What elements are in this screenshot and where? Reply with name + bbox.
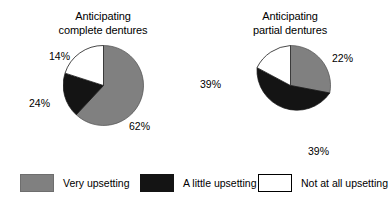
- legend-swatch-not-at-all-upsetting: [258, 174, 292, 192]
- chart-title-line-1: Anticipating: [196, 10, 384, 24]
- chart-complete-dentures: Anticipating complete dentures 14% 24% 6…: [9, 10, 197, 160]
- pie-label-a-little-upsetting: 24%: [29, 97, 50, 109]
- pie-svg-complete-dentures: [63, 45, 144, 126]
- legend-swatch-very-upsetting: [20, 174, 54, 192]
- pie-label-not-at-all-upsetting: 39%: [200, 78, 221, 90]
- chart-title-line-2: partial dentures: [196, 24, 384, 38]
- chart-partial-dentures: Anticipating partial dentures 22% 39% 39…: [196, 10, 384, 160]
- legend-label-very-upsetting: Very upsetting: [63, 177, 130, 189]
- chart-title-partial-dentures: Anticipating partial dentures: [196, 10, 384, 37]
- chart-legend: Very upsetting A little upsetting Not at…: [0, 172, 376, 196]
- pie-label-not-at-all-upsetting: 14%: [49, 50, 70, 62]
- pie-label-very-upsetting: 62%: [129, 120, 150, 132]
- chart-title-complete-dentures: Anticipating complete dentures: [9, 10, 197, 37]
- legend-item-not-at-all-upsetting: Not at all upsetting: [258, 172, 388, 194]
- chart-title-line-2: complete dentures: [9, 24, 197, 38]
- chart-title-line-1: Anticipating: [9, 10, 197, 24]
- pie-complete-dentures: [63, 45, 144, 126]
- pie-label-a-little-upsetting: 39%: [308, 145, 329, 157]
- legend-item-a-little-upsetting: A little upsetting: [140, 172, 257, 194]
- pie-partial-dentures: [250, 45, 331, 126]
- pie-svg-partial-dentures: [250, 45, 331, 126]
- pie-label-very-upsetting: 22%: [332, 52, 353, 64]
- legend-label-not-at-all-upsetting: Not at all upsetting: [301, 177, 388, 189]
- legend-swatch-a-little-upsetting: [140, 174, 174, 192]
- pie-slice-very-upsetting: [291, 45, 331, 93]
- legend-label-a-little-upsetting: A little upsetting: [183, 177, 257, 189]
- legend-item-very-upsetting: Very upsetting: [20, 172, 130, 194]
